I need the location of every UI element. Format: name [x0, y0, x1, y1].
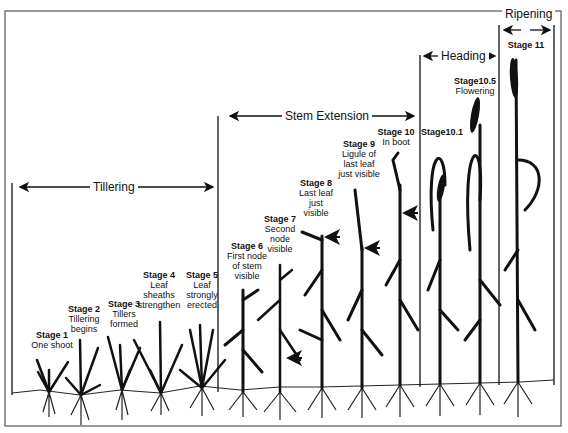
stage-label-10-1: Stage10.1 — [420, 127, 464, 137]
wheat-growth-stages-diagram: Tillering Stem Extension Heading Ripenin… — [0, 0, 568, 433]
stage-label-4: Stage 4 Leaf sheaths strengthen — [134, 270, 184, 310]
roots — [43, 382, 532, 425]
phase-label-heading: Heading — [438, 49, 489, 63]
stage-label-11: Stage 11 — [504, 40, 548, 50]
stage-label-8: Stage 8 Last leaf just visible — [294, 178, 338, 218]
stage-label-10-5: Stage10.5 Flowering — [452, 76, 498, 96]
stage-label-2: Stage 2 Tillering begins — [64, 304, 104, 334]
phase-label-stem-extension: Stem Extension — [282, 109, 372, 123]
stage-label-10: Stage 10 In boot — [376, 127, 416, 147]
stage-label-7: Stage 7 Second node visible — [260, 214, 300, 254]
phase-label-tillering: Tillering — [90, 180, 138, 194]
stage-label-5: Stage 5 Leaf strongly erected — [182, 270, 222, 310]
phase-label-ripening: Ripening — [502, 7, 555, 21]
